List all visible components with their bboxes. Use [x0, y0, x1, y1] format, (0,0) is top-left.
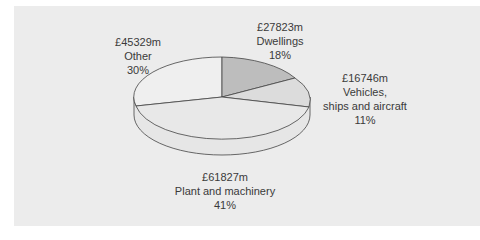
label-dwellings: £27823m Dwellings 18% — [240, 20, 320, 62]
label-plant: £61827m Plant and machinery 41% — [160, 170, 290, 212]
label-other: £45329m Other 30% — [98, 35, 178, 77]
label-vehicles: £16746m Vehicles, ships and aircraft 11% — [310, 71, 420, 127]
